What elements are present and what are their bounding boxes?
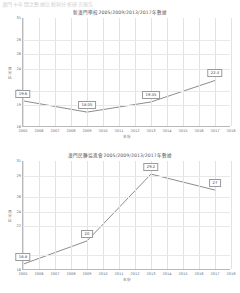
chart-2-gridline-vertical <box>119 161 120 269</box>
chart-1-gridline-vertical <box>135 18 136 126</box>
chart-1-xtick: 2017 <box>210 129 219 133</box>
chart-2-gridline-horizontal <box>23 176 230 177</box>
chart-1-xtick: 2018 <box>226 129 235 133</box>
chart-1-xtick: 2015 <box>178 129 187 133</box>
chart-1-ytick: 19 <box>16 103 21 107</box>
chart-1-gridline-vertical <box>23 18 24 126</box>
chart-2-gridline-vertical <box>151 161 152 269</box>
chart-1-xtick: 2007 <box>50 129 59 133</box>
chart-2-xtick: 2005 <box>18 272 27 276</box>
chart-2-xtick: 2006 <box>34 272 43 276</box>
chart-2-data-label: 29.2 <box>143 163 158 171</box>
chart-1-gridline-vertical <box>151 18 152 126</box>
chart-1-title: 新澳門學校2005/2009/2013/2017年數據 <box>0 9 240 15</box>
chart-2: 澳門民聯協進會2005/2009/2013/2017年數據 百分比 年份 200… <box>0 150 240 293</box>
chart-2-plot-area: 年份 2005200620072008200920102011201220132… <box>22 161 230 270</box>
chart-1: 新澳門學校2005/2009/2013/2017年數據 百分比 年份 20052… <box>0 7 240 150</box>
chart-2-xtick: 2013 <box>146 272 155 276</box>
chart-2-data-label: 20 <box>81 230 93 238</box>
chart-2-gridline-vertical <box>39 161 40 269</box>
chart-1-gridline-horizontal <box>23 91 230 92</box>
chart-1-xtick: 2008 <box>66 129 75 133</box>
chart-2-xtick: 2012 <box>130 272 139 276</box>
chart-1-gridline-vertical <box>167 18 168 126</box>
chart-2-gridline-horizontal <box>23 226 230 227</box>
chart-2-xtick: 2011 <box>114 272 123 276</box>
chart-1-yaxis-label: 百分比 <box>6 67 13 80</box>
chart-1-ytick: 26 <box>16 52 21 56</box>
chart-2-gridline-vertical <box>55 161 56 269</box>
chart-1-gridline-horizontal <box>23 40 230 41</box>
chart-2-ytick: 16 <box>16 268 21 272</box>
chart-2-gridline-vertical <box>183 161 184 269</box>
chart-2-gridline-vertical <box>87 161 88 269</box>
chart-2-gridline-vertical <box>231 161 232 269</box>
header-ghost-text: 澳門十年間之數據比較與分析研究報告 <box>2 0 94 7</box>
chart-1-xtick: 2014 <box>162 129 171 133</box>
chart-2-gridline-vertical <box>135 161 136 269</box>
chart-2-ytick: 24 <box>16 210 21 214</box>
top-header-strip: 澳門十年間之數據比較與分析研究報告 <box>0 0 240 7</box>
chart-2-ytick: 26 <box>16 195 21 199</box>
chart-1-xtick: 2016 <box>194 129 203 133</box>
chart-1-gridline-vertical <box>199 18 200 126</box>
chart-2-xtick: 2015 <box>178 272 187 276</box>
chart-2-gridline-vertical <box>215 161 216 269</box>
chart-1-xtick: 2009 <box>82 129 91 133</box>
chart-1-xtick: 2006 <box>34 129 43 133</box>
chart-1-gridline-horizontal <box>23 105 230 106</box>
chart-2-gridline-vertical <box>103 161 104 269</box>
chart-1-gridline-horizontal <box>23 54 230 55</box>
chart-1-gridline-vertical <box>103 18 104 126</box>
chart-1-xtick: 2011 <box>114 129 123 133</box>
chart-2-xtick: 2008 <box>66 272 75 276</box>
chart-2-data-label: 27 <box>209 179 221 187</box>
chart-2-gridline-vertical <box>167 161 168 269</box>
chart-1-xaxis-label: 年份 <box>123 134 131 139</box>
chart-2-title: 澳門民聯協進會2005/2009/2013/2017年數據 <box>0 152 240 158</box>
chart-1-ytick: 16 <box>16 125 21 129</box>
chart-1-ytick: 28 <box>16 38 21 42</box>
chart-page: 澳門十年間之數據比較與分析研究報告 新澳門學校2005/2009/2013/20… <box>0 0 240 293</box>
chart-2-gridline-horizontal <box>23 212 230 213</box>
chart-2-xtick: 2017 <box>210 272 219 276</box>
chart-1-ytick: 24 <box>16 67 21 71</box>
chart-2-gridline-vertical <box>199 161 200 269</box>
chart-1-xtick: 2013 <box>146 129 155 133</box>
chart-2-ytick: 22 <box>16 224 21 228</box>
chart-2-gridline-vertical <box>71 161 72 269</box>
chart-2-xtick: 2018 <box>226 272 235 276</box>
chart-1-data-label: 19.45 <box>142 91 160 99</box>
chart-2-data-label: 16.8 <box>15 253 30 261</box>
chart-2-xaxis-label: 年份 <box>123 277 131 282</box>
chart-2-ytick: 29 <box>16 174 21 178</box>
chart-1-gridline-horizontal <box>23 69 230 70</box>
chart-1-gridline-vertical <box>39 18 40 126</box>
chart-1-data-label: 22.4 <box>207 69 222 77</box>
chart-1-gridline-vertical <box>71 18 72 126</box>
chart-1-gridline-vertical <box>119 18 120 126</box>
chart-2-yaxis-label: 百分比 <box>6 210 13 223</box>
chart-1-xtick: 2010 <box>98 129 107 133</box>
chart-1-gridline-vertical <box>87 18 88 126</box>
chart-1-xtick: 2005 <box>18 129 27 133</box>
chart-1-gridline-vertical <box>55 18 56 126</box>
chart-1-ytick: 31 <box>16 16 21 20</box>
chart-2-xtick: 2007 <box>50 272 59 276</box>
chart-1-gridline-vertical <box>231 18 232 126</box>
chart-2-gridline-horizontal <box>23 197 230 198</box>
chart-2-xtick: 2010 <box>98 272 107 276</box>
chart-1-xtick: 2012 <box>130 129 139 133</box>
chart-1-data-label: 18.05 <box>78 101 96 109</box>
chart-2-xtick: 2016 <box>194 272 203 276</box>
chart-1-plot-area: 年份 2005200620072008200920102011201220132… <box>22 18 230 127</box>
chart-2-ytick: 31 <box>16 159 21 163</box>
chart-1-data-label: 19.6 <box>15 90 30 98</box>
chart-1-gridline-vertical <box>183 18 184 126</box>
chart-2-xtick: 2009 <box>82 272 91 276</box>
chart-2-xtick: 2014 <box>162 272 171 276</box>
chart-2-gridline-horizontal <box>23 255 230 256</box>
